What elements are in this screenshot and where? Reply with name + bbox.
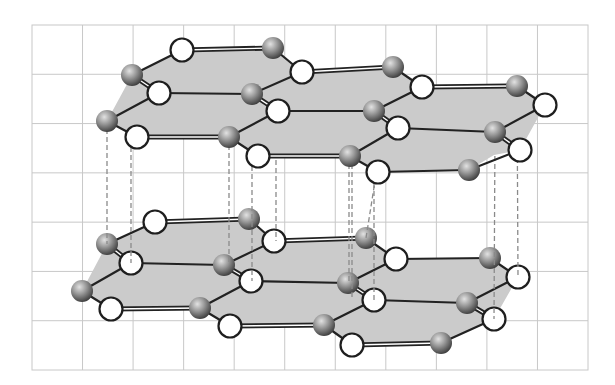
gray-atom bbox=[382, 56, 404, 78]
lattice-svg bbox=[0, 0, 615, 385]
white-atom bbox=[247, 145, 270, 168]
top-layer bbox=[96, 37, 557, 184]
white-atom bbox=[240, 270, 263, 293]
double-bond-gap bbox=[111, 308, 200, 309]
gray-atom bbox=[238, 208, 260, 230]
white-atom bbox=[385, 248, 408, 271]
gray-atom bbox=[458, 159, 480, 181]
white-atom bbox=[367, 161, 390, 184]
white-atom bbox=[509, 139, 532, 162]
gray-atom bbox=[456, 292, 478, 314]
white-atom bbox=[291, 61, 314, 84]
white-atom bbox=[144, 211, 167, 234]
gray-atom bbox=[121, 64, 143, 86]
gray-atom bbox=[213, 254, 235, 276]
double-bond-gap bbox=[422, 86, 517, 87]
gray-atom bbox=[430, 332, 452, 354]
white-atom bbox=[341, 334, 364, 357]
gray-atom bbox=[313, 314, 335, 336]
white-atom bbox=[534, 94, 557, 117]
white-atom bbox=[126, 126, 149, 149]
white-atom bbox=[148, 82, 171, 105]
white-atom bbox=[411, 76, 434, 99]
gray-atom bbox=[96, 110, 118, 132]
gray-atom bbox=[71, 280, 93, 302]
double-bond-gap bbox=[230, 325, 324, 326]
single-bond bbox=[159, 93, 252, 94]
gray-atom bbox=[506, 75, 528, 97]
gray-atom bbox=[189, 297, 211, 319]
white-atom bbox=[267, 100, 290, 123]
gray-atom bbox=[262, 37, 284, 59]
white-atom bbox=[100, 298, 123, 321]
white-atom bbox=[219, 315, 242, 338]
bottom-layer bbox=[71, 208, 530, 357]
gray-atom bbox=[241, 83, 263, 105]
gray-atom bbox=[363, 100, 385, 122]
white-atom bbox=[171, 39, 194, 62]
white-atom bbox=[263, 230, 286, 253]
gray-atom bbox=[218, 126, 240, 148]
gray-atom bbox=[337, 272, 359, 294]
single-bond bbox=[396, 258, 490, 259]
lattice-diagram bbox=[0, 0, 615, 385]
gray-atom bbox=[339, 145, 361, 167]
white-atom bbox=[387, 117, 410, 140]
gray-atom bbox=[479, 247, 501, 269]
gray-atom bbox=[484, 121, 506, 143]
